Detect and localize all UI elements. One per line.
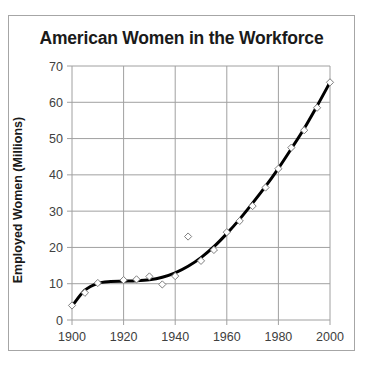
y-axis-ticks: 010203040506070 (49, 60, 63, 328)
data-point-diamond-icon (81, 289, 88, 296)
y-tick-label: 70 (49, 60, 63, 74)
x-tick-label: 1920 (110, 330, 138, 344)
y-tick-label: 60 (49, 96, 63, 110)
data-point-diamond-icon (185, 233, 192, 240)
y-tick-label: 40 (49, 168, 63, 182)
y-tick-label: 10 (49, 277, 63, 291)
trendline (72, 82, 330, 306)
data-markers (68, 79, 333, 309)
x-axis-ticks: 190019201940196019802000 (58, 330, 344, 344)
x-tick-label: 2000 (316, 330, 344, 344)
plot-area: 010203040506070 190019201940196019802000 (0, 0, 374, 371)
y-tick-label: 0 (56, 314, 63, 328)
y-tick-label: 20 (49, 241, 63, 255)
y-tick-label: 30 (49, 205, 63, 219)
gridlines (67, 66, 330, 325)
x-tick-label: 1940 (161, 330, 189, 344)
x-tick-label: 1980 (264, 330, 292, 344)
x-tick-label: 1960 (213, 330, 241, 344)
data-point-diamond-icon (159, 281, 166, 288)
y-tick-label: 50 (49, 132, 63, 146)
x-tick-label: 1900 (58, 330, 86, 344)
